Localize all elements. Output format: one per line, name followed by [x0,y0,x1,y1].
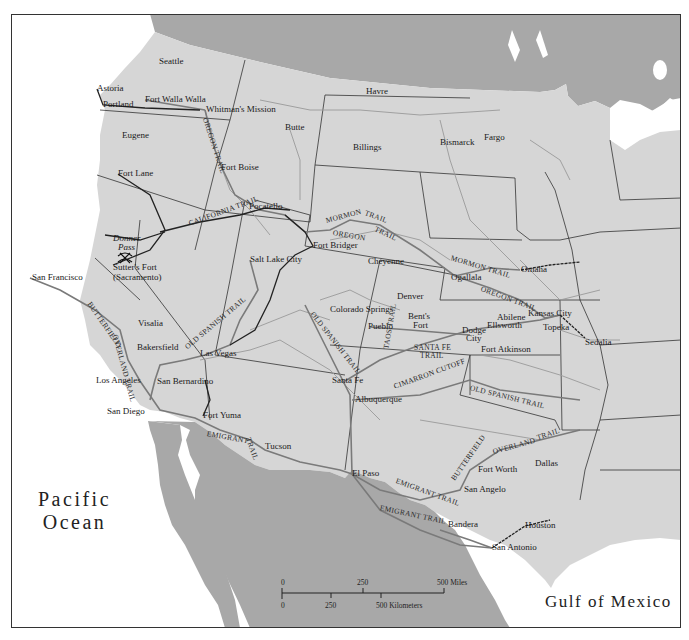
city-label: San Francisco [32,273,83,282]
city-label: Billings [353,143,382,152]
city-label: Fort Atkinson [481,345,531,354]
lake [653,60,667,80]
scale-mile-0: 0 [281,579,285,587]
city-label: Denver [397,292,424,301]
city-label: Havre [366,87,388,96]
city-label: Albuquerque [355,395,402,404]
city-label: Seattle [159,57,184,66]
city-label: Bakersfield [137,343,178,352]
scale-km-500: 500 Kilometers [376,602,422,610]
city-label: Bandera [448,520,478,529]
scale-mile-250: 250 [357,579,368,587]
city-label: Fort [413,321,428,330]
city-label: Eugene [122,131,149,140]
city-label: Fort Walla Walla [145,95,206,104]
city-label: San Diego [107,407,145,416]
trail-label: TRAIL [420,352,444,360]
city-label: Whitman's Mission [206,105,276,114]
city-label: Tucson [265,442,291,451]
city-label: El Paso [352,469,379,478]
city-label: San Antonio [492,543,537,552]
city-label: Fort Yuma [203,411,241,420]
city-label: Bismarck [440,138,475,147]
city-label: Fort Lane [118,169,153,178]
scale-km-250: 250 [325,602,336,610]
city-label: City [466,334,482,343]
gulf-of-mexico-label: Gulf of Mexico [545,592,672,612]
city-label: Portland [103,100,134,109]
city-label: Ogallala [451,273,482,282]
city-label: San Angelo [464,485,506,494]
city-label: Ellsworth [487,321,522,330]
city-label: Santa Fe [332,376,363,385]
pacific-ocean-label: Pacific Ocean [38,488,111,534]
scale-mile-500: 500 Miles [437,579,467,587]
city-label: Fargo [484,133,505,142]
city-label: Butte [285,123,305,132]
scale-km-0: 0 [281,602,285,610]
city-label: San Bernardino [157,377,213,386]
city-label: Los Angeles [96,376,141,385]
city-label: Sutter's Fort [113,263,157,272]
city-label: Visalia [138,319,163,328]
city-label: Sedalia [585,338,612,347]
city-label: Fort Bridger [313,241,358,250]
place-label: Pass [118,243,135,252]
pacific-label-line2: Ocean [38,511,111,534]
city-label: Cheyenne [368,257,404,266]
city-label: Topeka [543,323,569,332]
city-label: Las Vegas [200,349,237,358]
pacific-label-line1: Pacific [38,488,111,511]
city-label: Dallas [535,459,558,468]
city-label: Fort Worth [478,465,517,474]
city-label: Houston [525,521,556,530]
city-label: Astoria [97,84,124,93]
city-label: Colorado Springs [330,305,393,314]
city-label: Omaha [521,265,547,274]
city-label: Salt Lake City [250,255,302,264]
city-label: (Sacramento) [113,273,161,282]
